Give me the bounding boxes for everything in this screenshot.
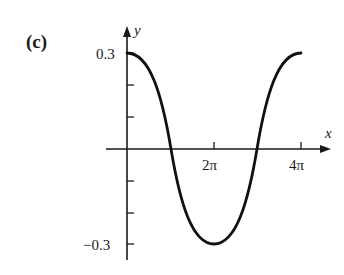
y-tick-label-top: 0.3	[96, 46, 115, 62]
y-axis-label: y	[132, 22, 141, 38]
x-tick-label-2pi: 2π	[202, 157, 218, 173]
chart: (c) y x 0.3 −0.3 2π 4π	[0, 0, 344, 275]
x-axis-arrow-icon	[320, 145, 331, 153]
x-tick-label-4pi: 4π	[289, 157, 305, 173]
panel-label: (c)	[26, 31, 47, 53]
y-tick-label-bottom: −0.3	[83, 237, 110, 253]
x-axis-label: x	[324, 125, 332, 141]
y-axis-arrow-icon	[123, 26, 131, 37]
